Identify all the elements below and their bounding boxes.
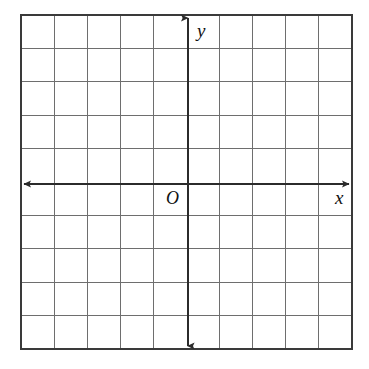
origin-label: O	[166, 189, 179, 207]
x-axis-label: x	[335, 188, 343, 207]
plot-background	[21, 15, 352, 349]
coordinate-grid-figure: y x O	[0, 0, 369, 369]
coordinate-grid-canvas	[0, 0, 369, 369]
y-axis-label: y	[197, 21, 205, 40]
